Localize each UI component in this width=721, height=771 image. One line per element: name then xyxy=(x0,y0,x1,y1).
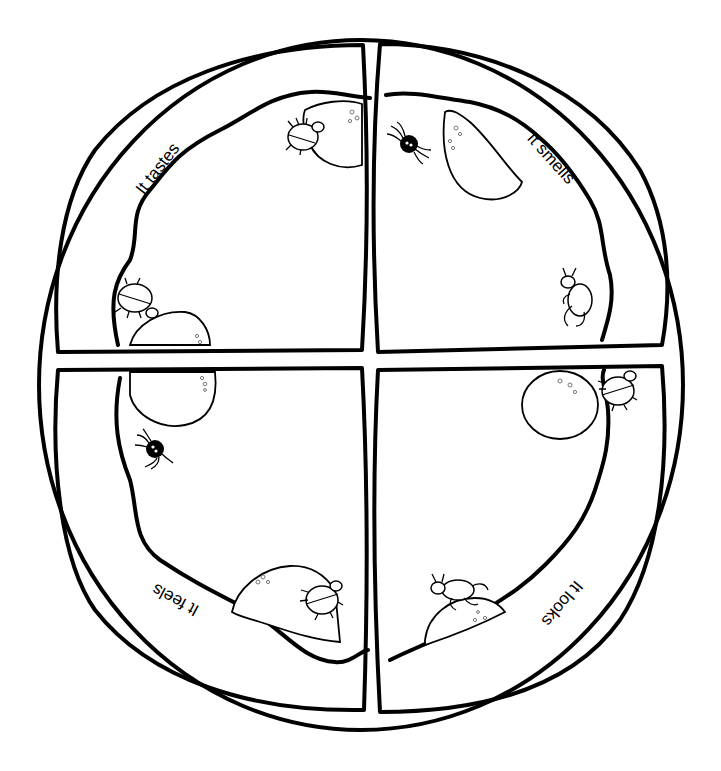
label-it-tastes: It tastes xyxy=(132,139,184,198)
slice-bottom-right xyxy=(374,366,664,712)
spider-bottom-left xyxy=(135,429,173,469)
pepperoni-bottom-right-2 xyxy=(425,598,505,645)
label-it-feels: It feels xyxy=(149,580,202,620)
slice-top-left xyxy=(56,45,370,352)
worksheet-canvas: It tastes It smells It feels It looks xyxy=(0,0,721,771)
slice-bottom-left xyxy=(55,368,368,710)
pepperoni-bottom-left-1 xyxy=(130,372,216,426)
pepperoni-bottom-right-1 xyxy=(522,371,598,439)
ladybug-top-left-2 xyxy=(115,278,158,318)
spider-top-right xyxy=(387,122,431,164)
label-it-looks: It looks xyxy=(538,577,587,630)
pepperoni-top-left-2 xyxy=(130,312,210,345)
label-it-smells: It smells xyxy=(523,129,579,188)
pepperoni-top-right xyxy=(444,111,522,200)
ant-top-right xyxy=(561,268,592,326)
slice-top-right xyxy=(374,44,668,352)
